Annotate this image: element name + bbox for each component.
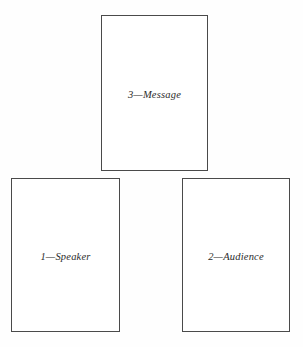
diagram-box-audience-label: 2—Audience: [208, 251, 264, 262]
diagram-box-speaker-label: 1—Speaker: [40, 251, 90, 262]
diagram-box-audience[interactable]: 2—Audience: [182, 178, 290, 332]
diagram-box-speaker[interactable]: 1—Speaker: [11, 178, 120, 332]
diagram-box-message-label: 3—Message: [128, 89, 181, 100]
diagram-box-message[interactable]: 3—Message: [101, 15, 208, 171]
diagram-canvas: 3—Message 1—Speaker 2—Audience: [0, 0, 303, 347]
